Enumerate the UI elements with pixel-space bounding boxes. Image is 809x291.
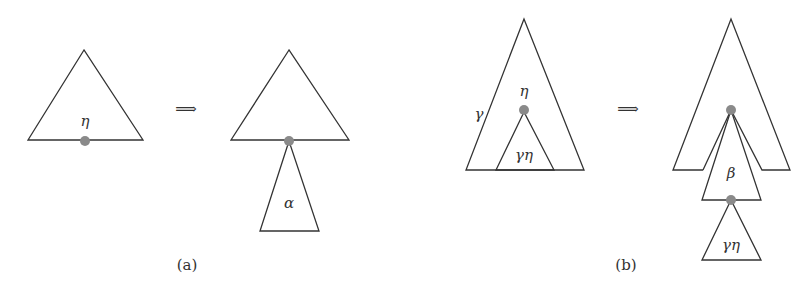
subtree-label-gamma-eta: γη — [515, 146, 533, 164]
panel-b-before: η γ γη — [466, 19, 584, 170]
tree-label-gamma: γ — [475, 105, 484, 123]
panel-a-before: η — [28, 50, 143, 146]
panel-a-after: α — [231, 50, 349, 231]
tree-adjunction-diagram: η ⟹ α (a) η γ γη ⟹ β γη (b) — [0, 0, 809, 291]
subtree-label-alpha: α — [284, 194, 294, 212]
foot-node-dot — [726, 195, 736, 205]
node-dot — [726, 105, 736, 115]
subtree-triangle — [260, 141, 319, 231]
implies-arrow-b: ⟹ — [617, 100, 639, 118]
implies-arrow-a: ⟹ — [175, 100, 197, 118]
node-dot — [519, 105, 529, 115]
inserted-triangle — [702, 110, 761, 200]
node-label-eta: η — [81, 112, 90, 130]
tree-triangle — [231, 50, 349, 140]
node-label-eta: η — [520, 82, 529, 100]
node-dot — [284, 136, 294, 146]
subtree-label-gamma-eta: γη — [722, 236, 740, 254]
caption-b: (b) — [615, 256, 636, 274]
node-dot — [80, 136, 90, 146]
caption-a: (a) — [177, 256, 198, 274]
inserted-label-beta: β — [726, 164, 736, 182]
tree-outline — [673, 19, 790, 170]
panel-b-after: β γη — [673, 19, 790, 260]
